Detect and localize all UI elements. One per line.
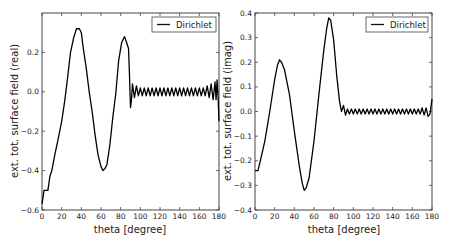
y-tick-label: 0.0 bbox=[240, 107, 252, 116]
y-tick-label: 0.3 bbox=[240, 33, 252, 42]
y-tick-label: 0.2 bbox=[240, 58, 252, 67]
x-tick-label: 180 bbox=[425, 212, 440, 221]
y-tick-label: 0.1 bbox=[240, 82, 252, 91]
y-tick-label: 0.0 bbox=[27, 87, 39, 96]
x-tick-label: 40 bbox=[290, 212, 300, 221]
x-tick-label: 80 bbox=[329, 212, 339, 221]
y-tick-label: −0.2 bbox=[21, 127, 39, 136]
y-tick-label: −0.4 bbox=[21, 166, 39, 175]
x-tick-label: 120 bbox=[366, 212, 381, 221]
x-tick-label: 140 bbox=[173, 212, 188, 221]
figure: 020406080100120140160180−0.6−0.4−0.20.00… bbox=[0, 0, 449, 245]
legend-imag: Dirichlet bbox=[366, 17, 428, 32]
x-tick-label: 60 bbox=[309, 212, 319, 221]
x-tick-label: 160 bbox=[192, 212, 207, 221]
y-tick-label: 0.2 bbox=[27, 48, 39, 57]
x-tick-label: 100 bbox=[346, 212, 361, 221]
x-tick-label: 80 bbox=[116, 212, 126, 221]
x-axis-label: theta [degree] bbox=[94, 224, 167, 235]
x-axis-label: theta [degree] bbox=[308, 224, 381, 235]
x-tick-label: 160 bbox=[405, 212, 420, 221]
x-tick-label: 120 bbox=[153, 212, 168, 221]
x-tick-label: 20 bbox=[270, 212, 280, 221]
x-tick-label: 60 bbox=[96, 212, 106, 221]
chart-imag: 020406080100120140160180−0.4−0.3−0.2−0.1… bbox=[222, 9, 439, 236]
x-tick-label: 0 bbox=[253, 212, 258, 221]
y-axis-label: ext. tot. surface field (imag) bbox=[222, 41, 233, 181]
legend-label: Dirichlet bbox=[176, 20, 212, 30]
legend-real: Dirichlet bbox=[152, 17, 216, 32]
x-tick-label: 140 bbox=[386, 212, 401, 221]
y-tick-label: −0.3 bbox=[234, 181, 252, 190]
y-tick-label: −0.2 bbox=[234, 156, 252, 165]
plot-area-real bbox=[42, 13, 219, 210]
x-tick-label: 40 bbox=[77, 212, 87, 221]
y-tick-label: 0.4 bbox=[240, 9, 252, 18]
x-tick-label: 20 bbox=[57, 212, 67, 221]
x-tick-label: 180 bbox=[212, 212, 227, 221]
x-tick-label: 0 bbox=[40, 212, 45, 221]
y-axis-label: ext. tot. surface field (real) bbox=[9, 44, 20, 178]
x-tick-label: 100 bbox=[133, 212, 148, 221]
y-tick-label: −0.4 bbox=[234, 206, 252, 215]
y-tick-label: −0.6 bbox=[21, 206, 39, 215]
chart-real: 020406080100120140160180−0.6−0.4−0.20.00… bbox=[9, 13, 226, 235]
legend-label: Dirichlet bbox=[390, 20, 426, 30]
y-tick-label: −0.1 bbox=[234, 132, 252, 141]
